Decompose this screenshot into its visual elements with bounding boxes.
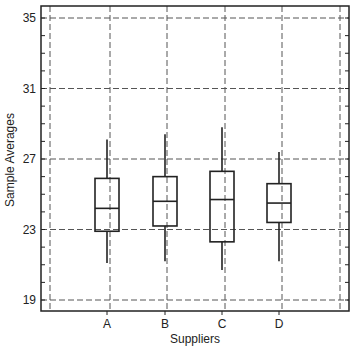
box-plot-chart: 1923273135 ABCD Suppliers Sample Average… xyxy=(0,0,356,348)
y-minor-ticks xyxy=(41,18,349,315)
box-c xyxy=(210,127,234,270)
x-tick-label: B xyxy=(161,317,169,331)
boxes xyxy=(95,127,291,270)
y-axis-title: Sample Averages xyxy=(3,113,17,207)
box-a xyxy=(95,140,119,263)
iqr-box xyxy=(210,171,234,242)
box-d xyxy=(267,152,291,261)
y-tick-label: 23 xyxy=(23,223,37,237)
x-tick-label: D xyxy=(275,317,284,331)
x-tick-label: A xyxy=(103,317,111,331)
y-tick-label: 27 xyxy=(23,152,37,166)
x-tick-labels: ABCD xyxy=(103,317,284,331)
x-axis-title: Suppliers xyxy=(170,332,220,346)
grid-lines xyxy=(41,6,349,311)
box-b xyxy=(153,134,177,261)
y-tick-labels: 1923273135 xyxy=(23,11,37,307)
iqr-box xyxy=(95,178,119,231)
y-tick-label: 19 xyxy=(23,293,37,307)
y-tick-label: 31 xyxy=(23,82,37,96)
y-tick-label: 35 xyxy=(23,11,37,25)
x-tick-label: C xyxy=(218,317,227,331)
